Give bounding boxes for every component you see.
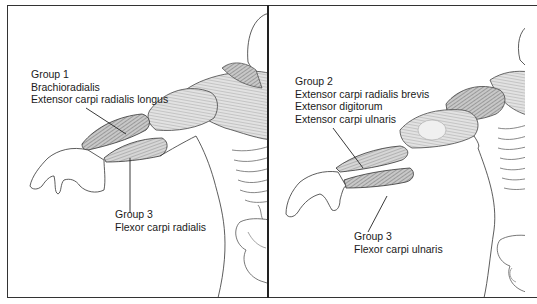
label-group2-muscle-2: Extensor digitorum [295, 100, 429, 113]
label-group2: Group 2 Extensor carpi radialis brevis E… [295, 75, 429, 125]
label-group1: Group 1 Brachioradialis Extensor carpi r… [31, 68, 168, 106]
label-group1-muscle-2: Extensor carpi radialis longus [31, 93, 168, 106]
right-panel-figure [286, 26, 525, 298]
label-group3-left-muscle-1: Flexor carpi radialis [115, 221, 206, 234]
label-group3-left: Group 3 Flexor carpi radialis [115, 208, 206, 233]
label-group3-right-title: Group 3 [354, 230, 443, 243]
label-group2-muscle-3: Extensor carpi ulnaris [295, 113, 429, 126]
left-panel-figure [30, 14, 280, 298]
leader-line-group3-right [368, 196, 387, 232]
label-group3-left-title: Group 3 [115, 208, 206, 221]
label-group1-title: Group 1 [31, 68, 168, 81]
label-group2-muscle-1: Extensor carpi radialis brevis [295, 88, 429, 101]
label-group3-right: Group 3 Flexor carpi ulnaris [354, 230, 443, 255]
label-group1-muscle-1: Brachioradialis [31, 81, 168, 94]
label-group2-title: Group 2 [295, 75, 429, 88]
label-group3-right-muscle-1: Flexor carpi ulnaris [354, 243, 443, 256]
